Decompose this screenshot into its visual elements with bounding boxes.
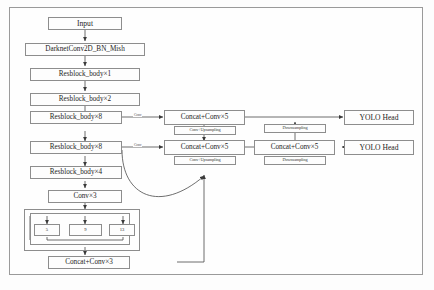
edge-label-conv-mid: Conv	[133, 143, 142, 147]
node-conv-upsampling-top[interactable]: Conv+Upsampling	[174, 126, 236, 135]
node-resblock-body-2[interactable]: Resblock_body×2	[30, 93, 140, 106]
node-conv-upsampling-mid[interactable]: Conv+Upsampling	[174, 156, 236, 165]
node-darknetconv2d-bn-mish-label: DarknetConv2D_BN_Mish	[45, 46, 124, 54]
node-resblock-body-1[interactable]: Resblock_body×1	[30, 68, 140, 81]
node-conv3-label: Conv×3	[73, 193, 96, 201]
node-downsampling-bottom[interactable]: Downsampling	[264, 156, 326, 165]
node-resblock-body-2-label: Resblock_body×2	[59, 96, 111, 104]
node-downsampling-top-label: Downsampling	[282, 126, 307, 131]
spp-pool-9[interactable]: 9	[69, 224, 102, 236]
node-concat-conv3[interactable]: Concat+Conv×3	[48, 256, 130, 269]
spp-pool-13-label: 13	[120, 228, 125, 233]
node-resblock-body-1-label: Resblock_body×1	[59, 71, 111, 79]
node-concat-conv5-mid-label: Concat+Conv×5	[181, 144, 229, 152]
spp-pool-5[interactable]: 5	[34, 224, 60, 236]
edge-label-conv-top: Conv	[133, 113, 142, 117]
node-yolo-head-bottom[interactable]: YOLO Head	[344, 140, 414, 155]
node-conv-upsampling-mid-label: Conv+Upsampling	[189, 158, 220, 163]
node-yolo-head-top[interactable]: YOLO Head	[344, 110, 414, 125]
node-resblock-body-8a-label: Resblock_body×8	[50, 114, 102, 122]
node-resblock-body-4[interactable]: Resblock_body×4	[30, 166, 122, 179]
spp-pool-9-label: 9	[84, 228, 86, 233]
node-resblock-body-8b-label: Resblock_body×8	[50, 144, 102, 152]
node-concat-conv5-right-label: Concat+Conv×5	[271, 144, 319, 152]
node-yolo-head-bottom-label: YOLO Head	[359, 144, 398, 152]
node-concat-conv5-right[interactable]: Concat+Conv×5	[254, 140, 335, 155]
node-input-label: Input	[77, 20, 93, 28]
node-yolo-head-top-label: YOLO Head	[359, 114, 398, 122]
node-darknetconv2d-bn-mish[interactable]: DarknetConv2D_BN_Mish	[25, 43, 145, 56]
spp-pool-5-label: 5	[46, 228, 48, 233]
node-downsampling-top[interactable]: Downsampling	[264, 124, 326, 133]
diagram-canvas: Input DarknetConv2D_BN_Mish Resblock_bod…	[0, 0, 434, 290]
spp-pool-13[interactable]: 13	[109, 224, 135, 236]
node-concat-conv3-label: Concat+Conv×3	[65, 259, 113, 267]
node-concat-conv5-top[interactable]: Concat+Conv×5	[164, 110, 245, 125]
node-resblock-body-8a[interactable]: Resblock_body×8	[30, 111, 122, 124]
node-concat-conv5-top-label: Concat+Conv×5	[181, 114, 229, 122]
node-resblock-body-8b[interactable]: Resblock_body×8	[30, 141, 122, 154]
node-conv3[interactable]: Conv×3	[48, 190, 122, 203]
node-input[interactable]: Input	[48, 17, 122, 30]
node-downsampling-bottom-label: Downsampling	[282, 158, 307, 163]
node-resblock-body-4-label: Resblock_body×4	[50, 169, 102, 177]
node-concat-conv5-mid[interactable]: Concat+Conv×5	[164, 140, 245, 155]
node-conv-upsampling-top-label: Conv+Upsampling	[189, 128, 220, 133]
